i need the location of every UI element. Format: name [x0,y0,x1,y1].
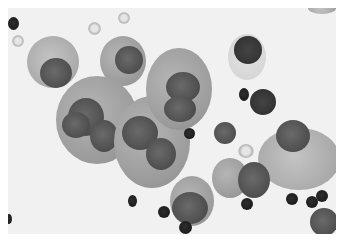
lymphocyte [158,206,170,218]
lymphocyte [179,221,192,234]
nucleus [146,138,176,170]
small-cell [310,208,336,234]
cell-fragment [308,8,336,14]
small-cell [250,89,276,115]
nucleus [164,96,196,122]
nucleus [115,46,143,74]
lymphocyte [286,193,298,205]
small-cell [214,122,236,144]
lymphocyte [8,17,19,30]
lymphocyte [8,214,12,224]
nucleus [62,112,90,138]
nucleus [238,162,270,198]
red-blood-cell [118,12,130,24]
nucleus [276,120,310,152]
red-blood-cell [12,35,24,47]
nucleus [234,36,262,64]
lymphocyte [316,190,328,202]
lymphocyte [184,128,195,139]
red-blood-cell [238,144,254,158]
lymphocyte [239,88,249,101]
nucleus [40,58,72,88]
nucleus [172,192,208,224]
red-blood-cell [88,22,101,35]
lymphocyte [128,195,137,207]
lymphocyte [241,198,253,210]
micrograph [8,8,336,234]
